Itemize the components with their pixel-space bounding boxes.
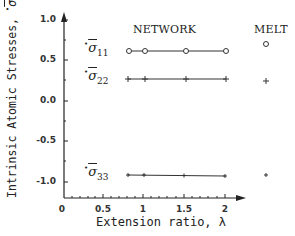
y-tick-label: 1.0	[26, 14, 56, 24]
legend-s22: •σ22	[84, 68, 108, 86]
x-tick-label: 1	[131, 204, 155, 214]
x-axis-label: Extension ratio, λ	[96, 215, 226, 229]
series-s22-network	[125, 76, 229, 82]
y-tick-label: -1.0	[26, 176, 56, 186]
sigma-symbol: σ	[5, 0, 19, 7]
series-s11-network	[127, 49, 229, 54]
melt-label: MELT	[254, 23, 288, 36]
x-tick-label: 0.5	[91, 204, 115, 214]
bullet-mark: •	[4, 7, 12, 11]
x-tick-label: 1.5	[172, 204, 196, 214]
x-axis-arrow	[236, 195, 246, 201]
legend-s11: •σ11	[84, 40, 108, 58]
series-s33-network	[126, 173, 227, 178]
y-tick-label: 0.0	[26, 95, 56, 105]
x-tick-label: 0	[50, 204, 74, 214]
sigma-symbol: σ	[88, 40, 97, 55]
y-axis-label-text: Intrinsic Atomic Stresses,	[5, 18, 19, 198]
subscript: 33	[97, 172, 108, 182]
subscript: 11	[97, 48, 108, 58]
sigma-symbol: σ	[88, 164, 97, 179]
subscript: 22	[97, 76, 108, 86]
sigma-symbol: σ	[88, 68, 97, 83]
y-axis-label: Intrinsic Atomic Stresses, •σij	[4, 0, 21, 198]
x-tick-label: 2	[213, 204, 237, 214]
network-label: NETWORK	[133, 23, 196, 36]
series-melt	[263, 42, 269, 178]
y-tick-label: -0.5	[26, 135, 56, 145]
y-tick-label: 0.5	[26, 54, 56, 64]
legend-s33: •σ33	[84, 164, 108, 182]
